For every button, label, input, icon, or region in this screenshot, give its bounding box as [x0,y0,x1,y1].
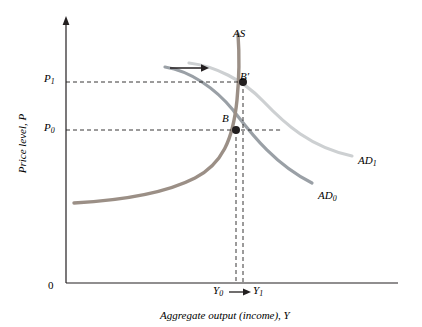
tick-label-p1: P1 [44,73,55,86]
ad0-curve-label-text: AD [318,189,333,201]
tick-label-y0-sub: 0 [219,289,223,298]
tick-label-p0: P0 [44,122,55,135]
as-curve [74,34,239,203]
point-b-prime-label: B′ [240,71,249,82]
ad1-curve-label: AD1 [358,155,377,168]
ad1-curve-label-sub: 1 [373,159,377,168]
point-b-label: B [222,113,229,124]
axes [63,16,398,283]
tick-label-y0: Y0 [213,285,223,298]
point-b-prime-label-text: B [240,70,247,82]
point-b-prime-label-prime: ′ [247,70,249,82]
ad0-curve-label-sub: 0 [333,194,337,203]
tick-label-y1: Y1 [253,285,263,298]
ad1-curve [189,63,352,156]
y-axis-arrowhead [63,16,70,25]
ad0-curve-label: AD0 [318,190,337,203]
tick-label-p1-text: P [44,72,51,84]
dashed-guides [66,82,280,283]
x-axis-label: Aggregate output (income), Y [160,310,290,321]
tick-label-p0-sub: 0 [51,126,55,135]
ad1-curve-label-text: AD [358,154,373,166]
output-shift-arrow [229,288,251,295]
origin-label: 0 [48,280,54,291]
y-axis-label: Price level, P [17,84,28,204]
tick-label-p0-text: P [44,121,51,133]
tick-label-y1-sub: 1 [259,289,263,298]
as-curve-label: AS [233,28,245,39]
tick-label-p1-sub: 1 [51,77,55,86]
point-b [232,126,240,134]
figure-container: Price level, P Aggregate output (income)… [0,0,422,327]
